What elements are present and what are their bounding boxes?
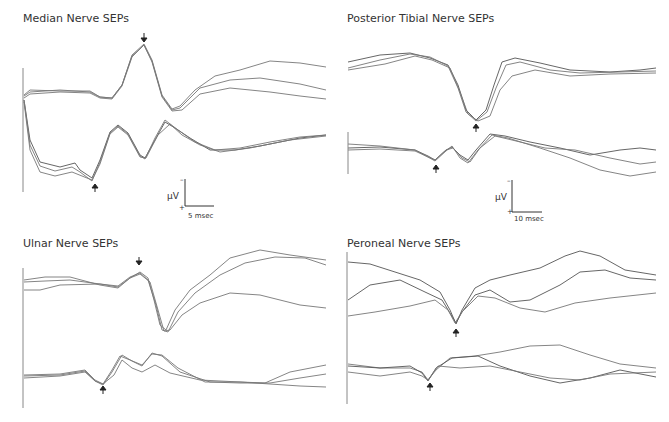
- y-unit-label: µV: [495, 192, 508, 202]
- arrow-up-icon: [100, 386, 106, 394]
- pos-label: +: [179, 204, 185, 212]
- pos-label: +: [507, 208, 513, 216]
- peroneal-panel: [347, 251, 656, 404]
- ulnar-panel: [23, 250, 326, 408]
- median-panel: – µV + 5 msec: [23, 33, 326, 220]
- arrow-up-icon: [92, 184, 98, 192]
- arrow-down-icon: [141, 33, 147, 42]
- tibial-scale-bar: – µV + 10 msec: [495, 177, 544, 223]
- sep-waveforms: – µV + 5 msec – µV + 10 msec: [0, 0, 669, 422]
- arrow-up-icon: [433, 165, 439, 173]
- x-scale-label: 5 msec: [188, 212, 213, 220]
- neg-label: –: [507, 177, 511, 185]
- tibial-panel: – µV + 10 msec: [348, 53, 656, 223]
- neg-label: –: [180, 176, 184, 184]
- arrow-down-icon: [136, 257, 142, 265]
- y-unit-label: µV: [167, 191, 180, 201]
- arrow-up-icon: [473, 124, 479, 132]
- x-scale-label: 10 msec: [514, 215, 544, 223]
- arrow-up-icon: [427, 383, 433, 391]
- arrow-up-icon: [453, 329, 459, 337]
- median-scale-bar: – µV + 5 msec: [167, 176, 214, 220]
